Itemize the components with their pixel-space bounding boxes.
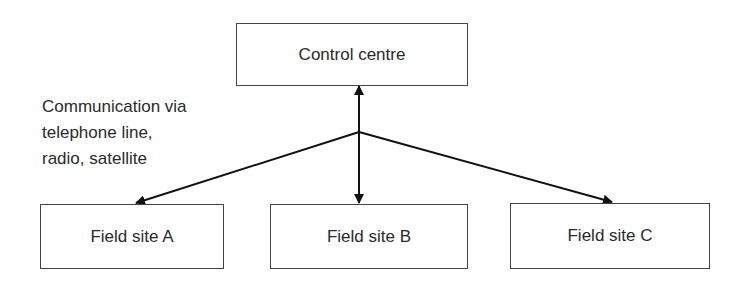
communication-annotation: Communication via telephone line, radio,… xyxy=(42,94,187,172)
arrow-to-site-c xyxy=(359,132,612,202)
control-centre-node: Control centre xyxy=(236,23,468,86)
field-site-a-node: Field site A xyxy=(40,204,224,269)
field-site-c-label: Field site C xyxy=(567,226,652,246)
field-site-b-label: Field site B xyxy=(327,227,411,247)
field-site-c-node: Field site C xyxy=(510,203,710,269)
field-site-a-label: Field site A xyxy=(90,227,173,247)
control-centre-label: Control centre xyxy=(299,45,406,65)
field-site-b-node: Field site B xyxy=(270,204,468,269)
